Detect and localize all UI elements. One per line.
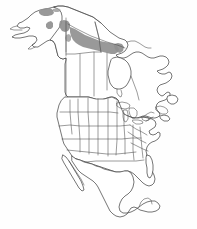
nova-scotia bbox=[160, 115, 170, 121]
north-america-map-svg bbox=[0, 0, 197, 229]
arctic-coast-indent bbox=[127, 41, 151, 48]
range-map-figure: North America distribution map North Ame… bbox=[0, 0, 197, 229]
florida-peninsula bbox=[146, 155, 153, 178]
range-patch-north-alaska-coast bbox=[39, 8, 54, 16]
newfoundland-island bbox=[167, 95, 178, 104]
